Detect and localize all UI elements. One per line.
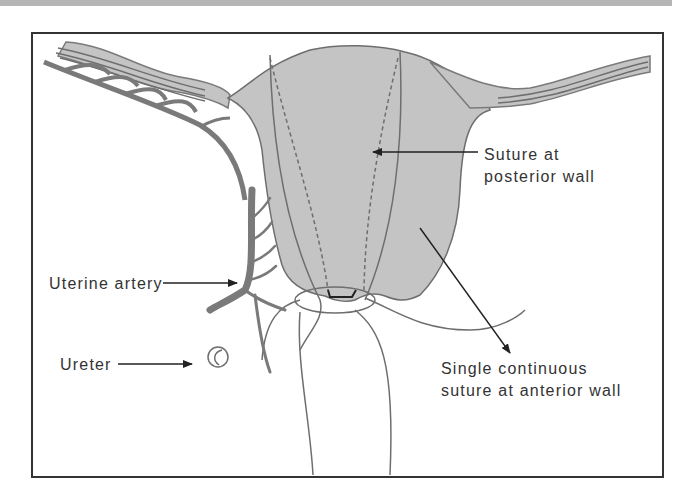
- label-anterior-suture-line1: Single continuous: [441, 358, 588, 380]
- uterus-diagram: [0, 0, 691, 500]
- right-tube: [430, 56, 650, 108]
- label-uterine-artery: Uterine artery: [49, 273, 163, 295]
- label-anterior-suture-line2: suture at anterior wall: [441, 380, 622, 402]
- label-posterior-suture-line1: Suture at: [484, 144, 560, 166]
- anterior-suture-arrow: [420, 228, 510, 353]
- label-posterior-suture-line2: posterior wall: [484, 166, 595, 188]
- ureter-icon: [208, 347, 228, 367]
- label-ureter: Ureter: [60, 354, 112, 376]
